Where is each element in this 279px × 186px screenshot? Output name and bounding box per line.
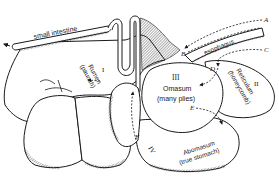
omasum-label: Omasum [163, 85, 192, 92]
omasum-common-label: (many plies) [157, 95, 195, 103]
ruminant-stomach-diagram: small intestine esophagus I Rumen (paunc… [0, 0, 279, 186]
point-a: A [263, 16, 269, 24]
point-d: D [209, 65, 215, 73]
reticulum-numeral: II [254, 80, 259, 88]
point-e: E [189, 104, 195, 112]
point-f: F [134, 133, 140, 141]
omasum-numeral: III [172, 73, 180, 82]
mesentery-shade [140, 18, 180, 70]
point-b: B [181, 50, 186, 58]
point-c: C [264, 46, 269, 54]
